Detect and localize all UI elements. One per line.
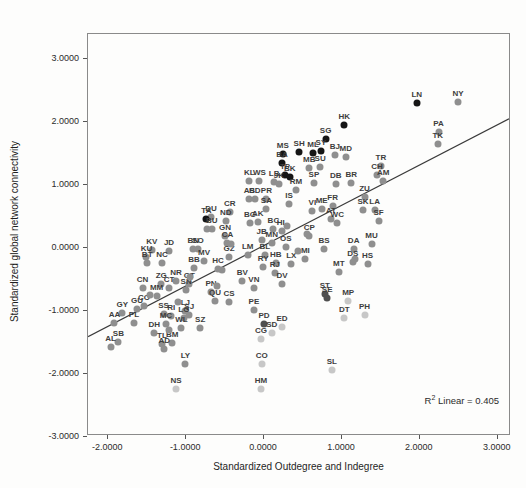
data-point [153, 293, 160, 300]
x-tick-label: 1.0000 [327, 442, 355, 452]
data-point [318, 206, 325, 213]
y-tick-label: -3.0000 [31, 431, 79, 441]
data-point [257, 386, 264, 393]
data-point-label: BJ [330, 142, 340, 151]
data-point-label: SG [320, 126, 332, 135]
data-point [303, 230, 310, 237]
data-point-label: MU [365, 231, 377, 240]
data-point [144, 260, 151, 267]
data-point [278, 323, 285, 330]
data-point-label: CO [256, 351, 268, 360]
data-point-label: BR [346, 170, 358, 179]
data-point [342, 154, 349, 161]
x-tick-mark [341, 435, 342, 439]
data-point [204, 226, 211, 233]
data-point-label: SK [357, 197, 368, 206]
data-point [214, 283, 221, 290]
data-point-label: CT [164, 275, 175, 284]
x-tick-label: 0.0000 [249, 442, 277, 452]
data-point-label: TA [201, 206, 211, 215]
data-point [182, 361, 189, 368]
data-point [166, 284, 173, 291]
data-point [328, 367, 335, 374]
data-point-label: SD [266, 320, 277, 329]
data-point-label: HM [255, 376, 267, 385]
data-point [295, 248, 302, 255]
data-point [211, 298, 218, 305]
data-point-label: AK [252, 209, 264, 218]
data-point [345, 297, 352, 304]
data-point [292, 187, 299, 194]
data-point [159, 260, 166, 267]
data-point-label: BL [259, 242, 270, 251]
data-point-label: HB [270, 250, 282, 259]
data-point-label: WC [331, 210, 344, 219]
data-point-label: BB [188, 255, 200, 264]
data-point-label: LY [181, 351, 191, 360]
data-point-label: PH [359, 302, 370, 311]
data-point [175, 298, 182, 305]
data-point-label: BS [318, 236, 329, 245]
data-point [352, 255, 359, 262]
data-point [256, 178, 263, 185]
plot-area: R2 Linear = 0.405 NYLNHKPATKSGSYMLSHMSBJ… [87, 33, 510, 435]
x-tick-mark [419, 435, 420, 439]
data-point [244, 251, 251, 258]
data-point [335, 269, 342, 276]
data-point-label: PL [129, 310, 139, 319]
data-point [285, 201, 292, 208]
data-point-label: MC [160, 311, 172, 320]
data-point [375, 218, 382, 225]
data-point-label: HK [339, 112, 351, 121]
y-tick-label: -1.0000 [31, 305, 79, 315]
data-point-label: RJ [270, 260, 280, 269]
data-point [258, 361, 265, 368]
data-point-label: LM [242, 242, 254, 251]
data-point-label: BD [249, 186, 261, 195]
data-point-label: PA [433, 119, 444, 128]
data-point-label: ZU [359, 184, 370, 193]
data-point [260, 263, 267, 270]
data-point-label: CN [137, 275, 149, 284]
data-point-label: TK [432, 131, 443, 140]
data-point-label: BA [276, 150, 288, 159]
data-point-label: DH [148, 320, 160, 329]
data-point [284, 222, 291, 229]
data-point [434, 141, 441, 148]
data-point-label: MI [301, 246, 310, 255]
data-point-label: SP [309, 170, 320, 179]
data-point [197, 325, 204, 332]
data-point-label: SO [192, 236, 204, 245]
data-point-label: SU [315, 154, 326, 163]
x-axis-title: Standardized Outdegree and Indegree [87, 461, 510, 472]
data-point [296, 149, 303, 156]
data-point-label: NY [452, 89, 463, 98]
data-point-label: LA [369, 197, 380, 206]
data-point [107, 344, 114, 351]
x-tick-mark [497, 435, 498, 439]
data-point-label: JD [164, 238, 174, 247]
data-point [268, 330, 275, 337]
data-point [331, 151, 338, 158]
data-point [257, 335, 264, 342]
data-point-label: HC [212, 256, 224, 265]
data-point [278, 280, 285, 287]
data-point-label: AL [105, 334, 116, 343]
data-point-label: OS [280, 234, 292, 243]
data-point-label: CA [222, 230, 234, 239]
data-point [348, 180, 355, 187]
data-point-label: CS [223, 289, 234, 298]
y-tick-label: 1.0000 [31, 179, 79, 189]
data-point-label: DT [339, 305, 350, 314]
data-point-label: PE [249, 297, 260, 306]
x-tick-label: -2.0000 [92, 442, 123, 452]
data-point [247, 220, 254, 227]
data-point-label: IS [285, 191, 293, 200]
data-point [302, 255, 309, 262]
data-point-label: DA [348, 236, 360, 245]
data-point [250, 284, 257, 291]
x-tick-mark [107, 435, 108, 439]
data-point-label: DB [330, 171, 342, 180]
data-point [166, 326, 173, 333]
data-point-label: SL [327, 357, 337, 366]
